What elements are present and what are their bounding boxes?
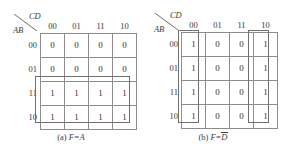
kmap-b-cell-r2c3: 1 [254,81,278,105]
kmap-a-cell-r1c2: 0 [89,58,113,82]
kmap-a-row-header-0: 00 [14,34,41,58]
kmap-a-cell-r2c3: 1 [113,82,137,106]
kmap-b-cell-r3c0: 1 [182,105,206,129]
kmap-a-cell-r3c3: 1 [113,106,137,130]
table-row: 01 1 0 0 1 [155,57,278,81]
kmap-b-cell-r0c1: 0 [206,33,230,57]
table-row: 10 1 1 1 1 [14,106,137,130]
kmap-b-cell-r1c1: 0 [206,57,230,81]
kmap-b-col-header-2: 11 [230,13,254,33]
kmap-a-cell-r0c2: 0 [89,34,113,58]
table-row: 00 1 0 0 1 [155,33,278,57]
kmap-a-row-header-1: 01 [14,58,41,82]
kmap-b-header-row: CD AB 00 01 11 10 [155,13,278,33]
kmap-a-caption-expr: F=A [69,132,85,142]
kmap-a-cell-r0c1: 0 [65,34,89,58]
kmap-a-cell-r3c0: 1 [41,106,65,130]
table-row: 10 1 0 0 1 [155,105,278,129]
kmap-b-cell-r0c3: 1 [254,33,278,57]
kmap-a-row-header-3: 10 [14,106,41,130]
kmap-panel-a: CD AB 00 01 11 10 00 0 0 0 0 01 [0,0,142,159]
kmap-a-grid-wrapper: CD AB 00 01 11 10 00 0 0 0 0 01 [14,14,137,130]
kmap-b-cell-r0c0: 1 [182,33,206,57]
kmap-b-cell-r3c1: 0 [206,105,230,129]
kmap-b-col-header-0: 00 [182,13,206,33]
kmap-b-cell-r1c2: 0 [230,57,254,81]
kmap-figure: CD AB 00 01 11 10 00 0 0 0 0 01 [0,0,284,159]
kmap-b-caption: (b)F=D [142,132,284,142]
kmap-b-table: CD AB 00 01 11 10 00 1 0 0 1 01 [155,13,278,129]
kmap-a-row-header-2: 11 [14,82,41,106]
kmap-a-cell-r0c3: 0 [113,34,137,58]
kmap-a-cell-r2c1: 1 [65,82,89,106]
kmap-a-table: CD AB 00 01 11 10 00 0 0 0 0 01 [14,14,137,130]
kmap-b-col-header-1: 01 [206,13,230,33]
kmap-a-corner-cell: CD AB [14,14,41,34]
kmap-a-cell-r0c0: 0 [41,34,65,58]
kmap-b-cell-r3c2: 0 [230,105,254,129]
kmap-a-col-var-label: CD [29,12,40,21]
kmap-a-col-header-3: 10 [113,14,137,34]
table-row: 01 0 0 0 0 [14,58,137,82]
kmap-a-cell-r3c2: 1 [89,106,113,130]
kmap-a-caption-tag: (a) [57,132,66,142]
kmap-b-row-var-label: AB [154,25,164,34]
kmap-b-row-header-3: 10 [155,105,182,129]
kmap-a-cell-r1c1: 0 [65,58,89,82]
kmap-b-col-var-label: CD [170,11,181,20]
table-row: 11 1 0 0 1 [155,81,278,105]
kmap-b-caption-expr: F=D [210,132,227,142]
kmap-a-header-row: CD AB 00 01 11 10 [14,14,137,34]
kmap-a-col-header-1: 01 [65,14,89,34]
kmap-a-col-header-2: 11 [89,14,113,34]
kmap-b-cell-r0c2: 0 [230,33,254,57]
kmap-a-caption-var: A [80,132,85,142]
kmap-a-cell-r1c0: 0 [41,58,65,82]
kmap-b-caption-var: D [221,132,227,142]
kmap-b-cell-r2c0: 1 [182,81,206,105]
kmap-b-cell-r1c3: 1 [254,57,278,81]
kmap-b-row-header-2: 11 [155,81,182,105]
kmap-a-cell-r1c3: 0 [113,58,137,82]
kmap-b-caption-lhs: F= [210,132,221,142]
kmap-a-cell-r2c2: 1 [89,82,113,106]
kmap-a-caption-lhs: F= [69,132,80,142]
kmap-b-corner-cell: CD AB [155,13,182,33]
kmap-b-cell-r2c1: 0 [206,81,230,105]
kmap-a-cell-r3c1: 1 [65,106,89,130]
kmap-b-grid-wrapper: CD AB 00 01 11 10 00 1 0 0 1 01 [155,13,278,129]
kmap-b-row-header-1: 01 [155,57,182,81]
kmap-b-cell-r3c3: 1 [254,105,278,129]
kmap-b-cell-r2c2: 0 [230,81,254,105]
kmap-a-row-var-label: AB [13,26,23,35]
kmap-panel-b: CD AB 00 01 11 10 00 1 0 0 1 01 [142,0,284,159]
kmap-a-col-header-0: 00 [41,14,65,34]
kmap-a-cell-r2c0: 1 [41,82,65,106]
kmap-b-row-header-0: 00 [155,33,182,57]
table-row: 11 1 1 1 1 [14,82,137,106]
kmap-b-caption-tag: (b) [199,132,209,142]
table-row: 00 0 0 0 0 [14,34,137,58]
kmap-a-caption: (a)F=A [0,132,142,142]
kmap-b-cell-r1c0: 1 [182,57,206,81]
kmap-b-col-header-3: 10 [254,13,278,33]
